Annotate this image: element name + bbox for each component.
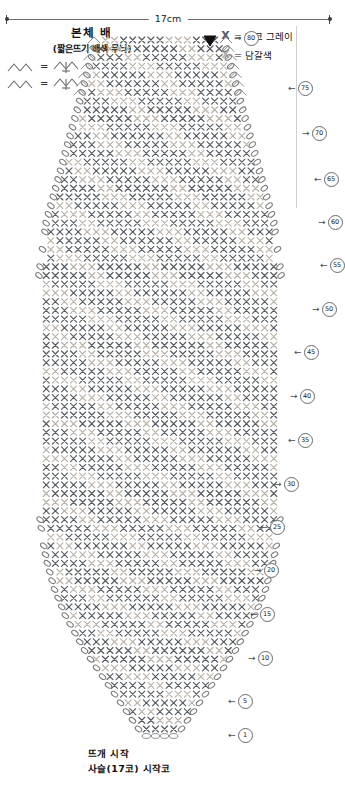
row-number-badge: 1 bbox=[238, 728, 253, 743]
row-marker-arrow-icon: ← bbox=[314, 175, 322, 184]
row-marker-40: →40 bbox=[288, 390, 315, 402]
row-number-badge: 10 bbox=[258, 651, 273, 666]
row-marker-35: ←35 bbox=[286, 434, 313, 446]
row-marker-arrow-icon: → bbox=[274, 480, 282, 489]
row-number-badge: 25 bbox=[270, 520, 285, 535]
row-marker-arrow-icon: → bbox=[234, 34, 242, 43]
row-marker-60: →60 bbox=[316, 216, 343, 228]
row-number-badge: 75 bbox=[298, 81, 313, 96]
note-start-knitting: 뜨개 시작 bbox=[88, 746, 308, 761]
row-number-badge: 60 bbox=[328, 215, 343, 230]
row-marker-25: ←25 bbox=[258, 521, 285, 533]
row-marker-80: →80 bbox=[232, 32, 259, 44]
row-marker-arrow-icon: ← bbox=[228, 697, 236, 706]
row-marker-arrow-icon: → bbox=[254, 566, 262, 575]
row-marker-65: ←65 bbox=[312, 173, 339, 185]
row-number-badge: 20 bbox=[264, 563, 279, 578]
row-number-badge: 30 bbox=[284, 477, 299, 492]
row-number-badge: 80 bbox=[244, 31, 259, 46]
row-marker-arrow-icon: ← bbox=[228, 731, 236, 740]
row-marker-20: →20 bbox=[252, 564, 279, 576]
row-marker-arrow-icon: ← bbox=[288, 84, 296, 93]
row-marker-75: ←75 bbox=[286, 82, 313, 94]
row-marker-arrow-icon: → bbox=[302, 129, 310, 138]
row-marker-arrow-icon: ← bbox=[260, 523, 268, 532]
row-marker-55: ←55 bbox=[318, 259, 345, 271]
row-number-badge: 65 bbox=[324, 172, 339, 187]
row-marker-arrow-icon: ← bbox=[320, 261, 328, 270]
row-marker-70: →70 bbox=[300, 127, 327, 139]
row-number-badge: 35 bbox=[298, 433, 313, 448]
row-marker-15: ←15 bbox=[248, 608, 275, 620]
row-marker-arrow-icon: ← bbox=[288, 436, 296, 445]
row-number-badge: 45 bbox=[304, 345, 319, 360]
row-number-badge: 40 bbox=[300, 389, 315, 404]
row-marker-arrow-icon: → bbox=[318, 218, 326, 227]
row-marker-50: →50 bbox=[310, 303, 337, 315]
row-marker-1: ←1 bbox=[226, 729, 253, 741]
row-number-badge: 5 bbox=[238, 694, 253, 709]
row-marker-arrow-icon: → bbox=[248, 654, 256, 663]
row-marker-arrow-icon: → bbox=[312, 305, 320, 314]
row-marker-45: ←45 bbox=[292, 346, 319, 358]
bottom-notes: 뜨개 시작 사슬(17코) 시작코 bbox=[88, 746, 308, 776]
row-marker-arrow-icon: ← bbox=[294, 348, 302, 357]
row-number-badge: 15 bbox=[260, 607, 275, 622]
row-marker-30: →30 bbox=[272, 478, 299, 490]
row-number-badge: 70 bbox=[312, 126, 327, 141]
row-marker-5: ←5 bbox=[226, 695, 253, 707]
row-marker-arrow-icon: ← bbox=[250, 610, 258, 619]
row-number-badge: 50 bbox=[322, 302, 337, 317]
row-number-badge: 55 bbox=[330, 258, 345, 273]
note-foundation-chain: 사슬(17코) 시작코 bbox=[88, 761, 308, 776]
row-marker-10: →10 bbox=[246, 652, 273, 664]
row-marker-arrow-icon: → bbox=[290, 392, 298, 401]
